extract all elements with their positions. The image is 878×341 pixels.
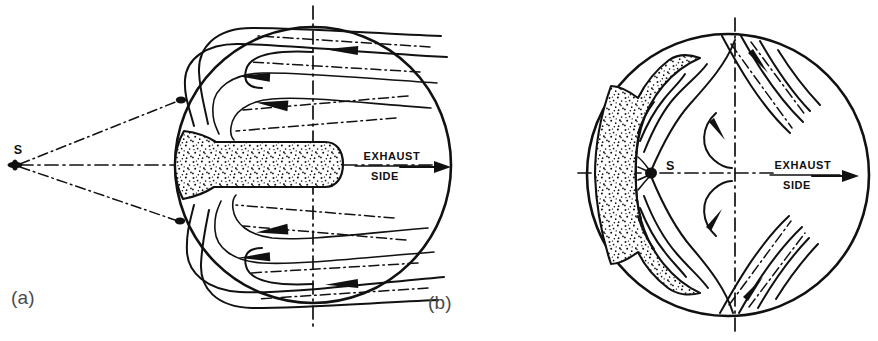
cone-ray-lower-a bbox=[20, 167, 181, 222]
flow-arrow-b-u2 bbox=[709, 118, 725, 140]
panel-caption-a: (a) bbox=[11, 287, 35, 309]
flow-arrow-a-l2 bbox=[238, 252, 270, 263]
spray-plume-a bbox=[175, 131, 343, 199]
exhaust-arrow-b bbox=[812, 170, 859, 182]
exhaust-label-line1-b: EXHAUST bbox=[775, 159, 832, 171]
panel-caption-b: (b) bbox=[428, 292, 452, 314]
flow-arrow-a-u1 bbox=[325, 44, 358, 55]
exhaust-label-line1-a: EXHAUST bbox=[364, 150, 421, 162]
panel-a-group: S bbox=[8, 6, 452, 326]
source-point-a bbox=[8, 160, 23, 171]
flow-arrow-b-l2 bbox=[706, 209, 722, 231]
source-label-a: S bbox=[14, 143, 22, 157]
panel-b-group: S bbox=[578, 18, 869, 332]
source-label-b: S bbox=[666, 159, 674, 173]
upper-streamline-band-b bbox=[709, 36, 820, 140]
exhaust-label-line2-a: SIDE bbox=[371, 170, 399, 182]
exhaust-label-line2-b: SIDE bbox=[783, 179, 811, 191]
figure-container: S bbox=[0, 0, 878, 341]
lower-streamline-band-a bbox=[187, 195, 444, 308]
cone-contact-dot-upper-a bbox=[176, 97, 186, 104]
exhaust-arrow-a bbox=[400, 161, 451, 173]
cone-contact-dot-lower-a bbox=[175, 218, 185, 225]
lower-streamline-band-b bbox=[706, 209, 818, 313]
upper-streamline-band-a bbox=[185, 28, 447, 140]
flow-arrow-b-l1 bbox=[743, 277, 763, 301]
figure-canvas: S bbox=[0, 0, 878, 341]
cone-ray-upper-a bbox=[20, 99, 183, 164]
